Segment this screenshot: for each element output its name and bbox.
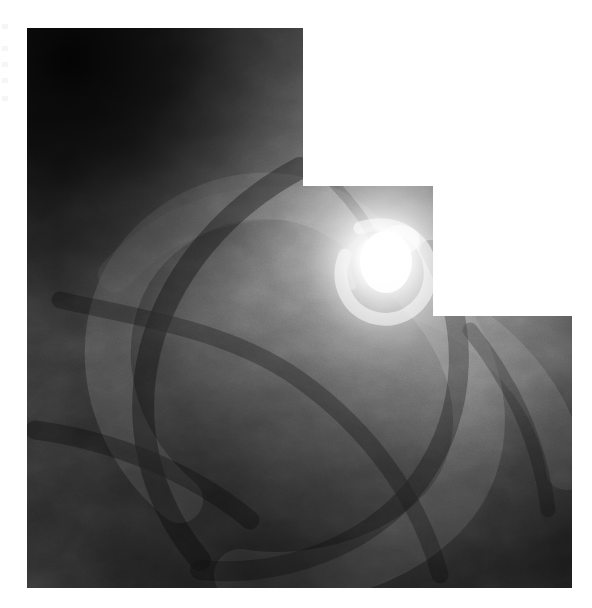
scan-artifact-mark-1 [2, 46, 8, 51]
galaxy-mosaic-canvas [0, 0, 592, 608]
galaxy-mosaic-figure: Spiral galaxy mosaic Face-on grand-desig… [0, 0, 592, 608]
film-grain-layer [0, 0, 592, 608]
scan-artifact-mark-3 [2, 78, 8, 83]
scan-artifact-mark-4 [2, 96, 8, 101]
scan-artifact-mark-2 [2, 62, 8, 67]
mosaic-content [0, 0, 592, 608]
scan-artifact-mark-0 [2, 24, 8, 29]
image-plate-stage: Spiral galaxy mosaic Face-on grand-desig… [0, 0, 592, 608]
